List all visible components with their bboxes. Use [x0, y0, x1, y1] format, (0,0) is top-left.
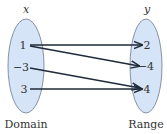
range-variable-label: y [143, 3, 151, 16]
domain-value: −3 [13, 61, 29, 74]
range-value: 2 [144, 39, 151, 52]
domain-value: 3 [21, 83, 28, 96]
mapping-arrow-1-to-neg4 [30, 46, 139, 66]
domain-caption: Domain [4, 118, 47, 131]
mapping-arrow-neg3-to-4 [30, 68, 140, 88]
range-value: −4 [138, 60, 154, 73]
mapping-diagram: x y 1 −3 3 2 −4 4 Domain Range [0, 0, 167, 134]
range-value: 4 [144, 83, 151, 96]
domain-value: 1 [20, 39, 27, 52]
domain-variable-label: x [23, 3, 30, 16]
range-caption: Range [128, 118, 164, 131]
